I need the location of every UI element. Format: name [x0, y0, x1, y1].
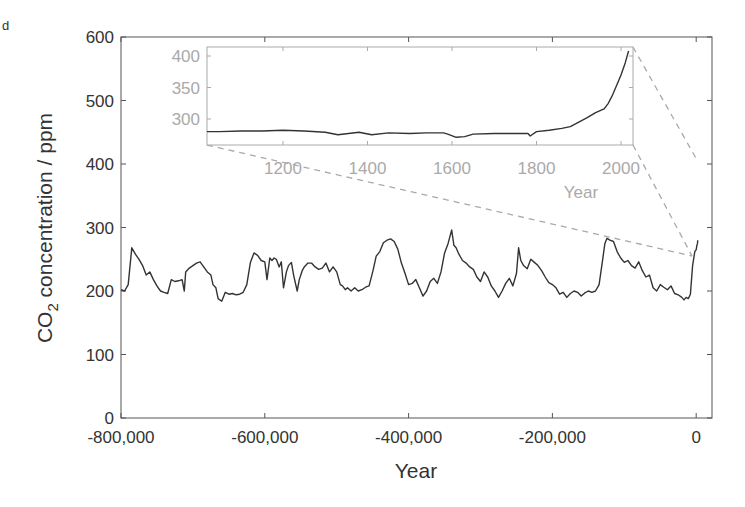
main-x-axis-title: Year	[395, 459, 437, 482]
inset-x-tick-label: 1800	[518, 159, 556, 178]
inset-x-tick-label: 2000	[602, 159, 640, 178]
co2-chart: 0100200300400500600 -800,000-600,000-400…	[0, 0, 745, 507]
main-y-tick-label: 0	[105, 409, 114, 428]
main-y-tick-label: 100	[86, 346, 114, 365]
main-x-tick-label: -200,000	[519, 428, 586, 447]
inset-x-tick-label: 1400	[349, 159, 387, 178]
main-y-tick-label: 300	[86, 219, 114, 238]
inset-x-axis-title: Year	[564, 183, 599, 202]
co2-main-series-line	[121, 230, 698, 301]
main-y-tick-label: 500	[86, 92, 114, 111]
main-y-tick-label: 400	[86, 155, 114, 174]
main-x-tick-label: 0	[691, 428, 700, 447]
main-y-tick-label: 600	[86, 28, 114, 47]
inset-y-tick-label: 300	[172, 110, 200, 129]
inset-y-tick-label: 350	[172, 79, 200, 98]
inset-x-tick-label: 1600	[433, 159, 471, 178]
inset-x-tick-label: 1200	[264, 159, 302, 178]
main-x-tick-label: -600,000	[231, 428, 298, 447]
main-y-tick-label: 200	[86, 282, 114, 301]
main-y-axis-title: CO2 concentration / ppm	[33, 113, 61, 343]
inset-y-tick-label: 400	[172, 47, 200, 66]
main-x-tick-label: -400,000	[375, 428, 442, 447]
main-x-tick-label: -800,000	[87, 428, 154, 447]
